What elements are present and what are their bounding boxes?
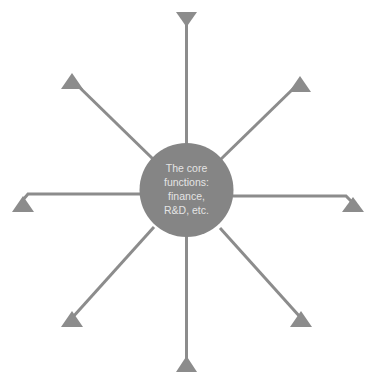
spoke-top-right: [219, 86, 296, 161]
triangle-up-icon-bottom: [176, 356, 197, 372]
hub-label-line-3: finance,: [168, 190, 205, 202]
triangle-down-icon-top: [176, 12, 197, 27]
spoke-right: [233, 196, 352, 202]
triangle-up-icon-bottom-left: [61, 311, 83, 327]
triangle-up-icon-top-right: [289, 76, 311, 92]
hub-label-line-4: R&D, etc.: [164, 204, 209, 216]
triangle-up-icon-left: [12, 196, 34, 212]
spoke-bottom-left: [72, 227, 154, 318]
spoke-left: [22, 194, 140, 201]
triangle-up-icon-top-left: [61, 73, 83, 89]
hub-and-spoke-diagram: The core functions: finance, R&D, etc.: [0, 0, 373, 387]
hub-label-line-2: functions:: [164, 176, 209, 188]
triangle-up-icon-bottom-right: [290, 311, 312, 327]
spoke-bottom-right: [220, 228, 301, 318]
hub: The core functions: finance, R&D, etc.: [140, 143, 234, 237]
spoke-top-left: [74, 82, 154, 160]
triangle-up-icon-right: [342, 197, 364, 212]
hub-label-line-1: The core: [166, 162, 208, 174]
